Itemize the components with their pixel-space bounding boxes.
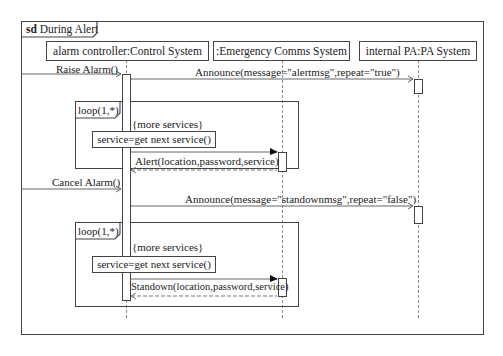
- action-get-next-service-2: service=get next service(): [92, 256, 216, 273]
- msg-standown: Standown(location,password,service): [131, 281, 288, 293]
- loop-guard-2: {more services}: [132, 241, 203, 253]
- msg-raise-alarm: Raise Alarm(): [56, 63, 118, 75]
- msg-announce-alert: Announce(message="alertmsg",repeat="true…: [195, 66, 400, 78]
- action-get-next-service-1-label: service=get next service(): [97, 133, 211, 145]
- msg-cancel-alarm: Cancel Alarm(): [52, 176, 120, 188]
- msg-announce-standown: Announce(message="standownmsg",repeat="f…: [185, 193, 416, 205]
- action-get-next-service-1: service=get next service(): [92, 131, 216, 148]
- loop-guard-1: {more services}: [132, 118, 203, 130]
- action-get-next-service-2-label: service=get next service(): [97, 258, 211, 270]
- msg-alert: Alert(location,password,service): [135, 155, 279, 167]
